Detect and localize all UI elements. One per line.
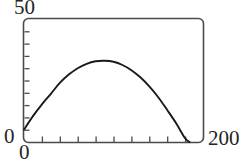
chart-container: 50 0 0 200: [0, 0, 242, 166]
plot-area: [0, 0, 242, 166]
